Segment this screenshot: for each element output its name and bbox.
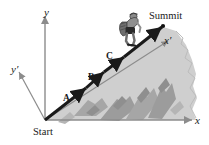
y-prime-axis-label: y′ bbox=[11, 64, 18, 75]
start-label: Start bbox=[33, 127, 53, 138]
figure-canvas bbox=[0, 0, 209, 145]
x-axis-label: x bbox=[195, 115, 200, 126]
waypoint-label-b: B bbox=[88, 73, 94, 83]
summit-label: Summit bbox=[149, 11, 182, 22]
x-prime-axis-label: x′ bbox=[164, 35, 171, 46]
waypoint-label-c: C bbox=[106, 52, 113, 62]
y-prime-axis bbox=[19, 72, 45, 120]
hiker-with-backpack-icon bbox=[119, 13, 140, 46]
summit-dot-icon bbox=[161, 24, 165, 28]
physics-figure-hiker-slope: y y′ x′ x A B C Summit Start bbox=[0, 0, 209, 145]
waypoint-label-a: A bbox=[63, 94, 70, 104]
y-axis-label: y bbox=[44, 7, 49, 18]
